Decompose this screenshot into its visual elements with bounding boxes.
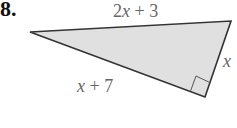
label-top-rest: + 3 xyxy=(130,1,158,21)
right-triangle-diagram: 2x + 3 x x + 7 xyxy=(0,0,237,128)
label-top-side: 2x + 3 xyxy=(113,1,158,21)
label-top-num: 2 xyxy=(113,1,122,21)
label-hyp-rest: + 7 xyxy=(85,76,113,96)
label-hypotenuse: x + 7 xyxy=(76,76,113,96)
triangle-shape xyxy=(30,21,231,97)
label-right-side: x xyxy=(222,51,231,71)
label-hyp-var: x xyxy=(76,76,85,96)
label-top-var: x xyxy=(121,1,130,21)
